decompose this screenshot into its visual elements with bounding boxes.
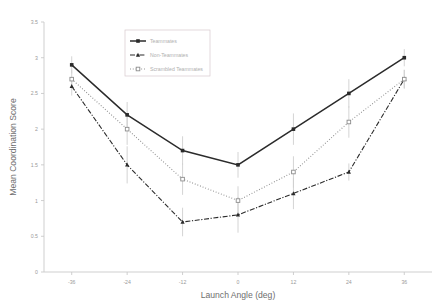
data-point-marker [181,149,185,153]
data-point-marker [292,170,296,174]
x-axis-tick-label: -24 [123,279,131,285]
legend-marker-2 [136,67,140,71]
data-point-marker [292,127,296,131]
legend-label-1: Non-Teammates [150,52,188,58]
y-axis-tick-label: 3 [35,55,38,61]
chart-figure: 00.511.522.533.5-36-24-120122436Launch A… [0,0,441,308]
x-axis-tick-label: -36 [68,279,76,285]
data-point-marker [236,163,240,167]
x-axis-title: Launch Angle (deg) [201,290,276,300]
y-axis-tick-label: 3.5 [31,19,38,25]
data-point-marker [402,77,406,81]
y-axis-tick-label: 1.5 [31,162,38,168]
y-axis-title: Mean Coordination Score [8,98,18,196]
x-axis-tick-label: 36 [401,279,407,285]
legend-label-2: Scrambled Teammates [150,66,203,72]
data-point-marker [347,92,351,96]
data-point-marker [125,163,129,167]
line-chart-canvas: 00.511.522.533.5-36-24-120122436Launch A… [0,0,441,308]
y-axis-tick-label: 0 [35,269,38,275]
series-line-2 [72,79,405,200]
y-axis-tick-label: 1 [35,198,38,204]
x-axis-tick-label: 12 [291,279,297,285]
data-point-marker [125,113,129,117]
x-axis-tick-label: 24 [346,279,352,285]
y-axis-tick-label: 2.5 [31,90,38,96]
data-point-marker [125,127,129,131]
data-point-marker [402,56,406,60]
axis-frame [44,22,432,272]
x-axis-tick-label: 0 [237,279,240,285]
y-axis-tick-label: 0.5 [31,233,38,239]
y-axis-tick-label: 2 [35,126,38,132]
data-point-marker [70,63,74,67]
data-point-marker [181,177,185,181]
data-point-marker [70,77,74,81]
legend-label-0: Teammates [150,38,177,44]
data-point-marker [347,120,351,124]
x-axis-tick-label: -12 [179,279,187,285]
data-point-marker [70,84,74,88]
series-line-0 [72,58,405,165]
legend-marker-0 [136,39,140,43]
data-point-marker [236,199,240,203]
